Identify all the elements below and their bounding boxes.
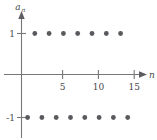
data-point (104, 31, 109, 36)
data-point (47, 31, 52, 36)
sequence-plot-figure: 5 10 15 1 -1 a n n (0, 0, 157, 140)
x-axis-label: n (149, 70, 155, 80)
data-point (32, 31, 37, 36)
horizontal-axis-arrow-icon (139, 71, 147, 77)
x-tick-label-10: 10 (93, 82, 105, 92)
y-tick-label-negative-one: -1 (6, 113, 15, 123)
data-point (61, 31, 66, 36)
plot-canvas: 5 10 15 1 -1 a n n (0, 0, 157, 140)
data-point (54, 115, 59, 120)
data-point (68, 115, 73, 120)
data-point (118, 31, 123, 36)
y-axis-label-base: a (15, 2, 20, 12)
data-point (25, 115, 30, 120)
y-axis-label-subscript: n (22, 6, 26, 13)
data-point (111, 115, 116, 120)
data-point (82, 115, 87, 120)
data-point (90, 31, 95, 36)
x-tick-label-15: 15 (128, 82, 140, 92)
data-point (75, 31, 80, 36)
data-point (125, 115, 130, 120)
data-point (97, 115, 102, 120)
y-tick-label-positive-one: 1 (9, 29, 15, 39)
x-tick-label-5: 5 (60, 82, 66, 92)
data-point (40, 115, 45, 120)
